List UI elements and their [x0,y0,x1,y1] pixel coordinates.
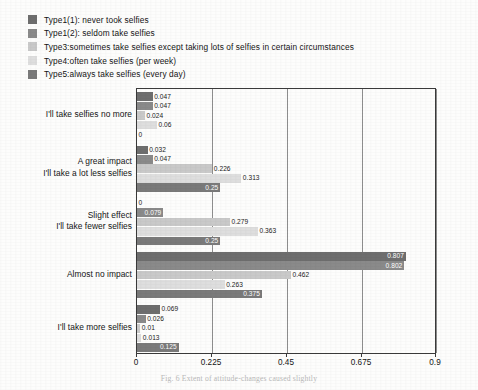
category-label: Slight effectI'll take fewer selfies [6,210,132,233]
legend-item-type1-1: Type1(1): never took selfies [28,13,458,27]
figure-page: Type1(1): never took selfiesType1(2): se… [0,0,478,390]
bar: 0.25 [137,237,220,246]
bar [137,174,241,183]
bar-row: 0.226 [137,164,435,173]
bar-row: 0.807 [137,252,435,261]
chart-legend: Type1(1): never took selfiesType1(2): se… [28,13,458,81]
plot-area: 0.0470.0470.0240.0600.0320.0470.2260.313… [136,88,436,354]
bar [137,315,146,324]
bar-value-label: 0.807 [387,253,404,260]
bar [137,334,141,343]
bar-group: 0.0690.0260.010.0130.125 [137,302,435,355]
bar [137,305,160,314]
bar: 0.25 [137,183,220,192]
category-label: A great impactI'll take a lot less selfi… [6,156,132,179]
bar: 0.375 [137,290,262,299]
gridline [436,89,437,353]
legend-item-type1-2: Type1(2): seldom take selfies [28,27,458,41]
category-label: I'll take selfies no more [6,109,132,120]
category-label: Almost no impact [6,269,132,280]
bar [137,280,225,289]
bar: 0.125 [137,343,179,352]
bar-row: 0.462 [137,271,435,280]
bar-value-label: 0.25 [205,184,218,191]
bar-value-label: 0.01 [142,325,155,332]
x-tick-label: 0.9 [429,358,440,367]
legend-item-type3: Type3:sometimes take selfies except taki… [28,40,458,54]
legend-swatch-icon [28,15,37,24]
x-tick-label: 0.225 [201,358,222,367]
legend-item-label: Type3:sometimes take selfies except taki… [44,42,354,52]
bar-value-label: 0.375 [243,291,260,298]
bar [137,218,230,227]
bar [137,271,291,280]
bar-value-label: 0.313 [243,175,260,182]
bar-value-label: 0.802 [386,262,403,269]
bar [137,102,153,111]
figure-caption: Fig. 6 Extent of attitude-changes caused… [0,374,478,383]
bar-value-label: 0.069 [162,306,179,313]
bar-row: 0.069 [137,305,435,314]
bar-group: 0.8070.8020.4620.2630.375 [137,249,435,302]
bar-value-label: 0 [139,131,143,138]
bar-row: 0 [137,199,435,208]
category-axis-labels: I'll take selfies no moreA great impactI… [0,88,132,354]
x-tick [136,354,137,357]
bar-value-label: 0.026 [147,316,164,323]
bar-row: 0.375 [137,290,435,299]
bar-value-label: 0.25 [205,238,218,245]
bar-row: 0.079 [137,208,435,217]
bar-value-label: 0.06 [159,122,172,129]
bar-value-label: 0.047 [154,103,171,110]
bar [137,121,157,130]
bar-row: 0.263 [137,280,435,289]
bar-value-label: 0.047 [154,156,171,163]
bar [137,164,212,173]
x-tick [435,354,436,357]
bar-group: 00.0790.2790.3630.25 [137,195,435,248]
bar-row: 0.047 [137,102,435,111]
bar-row: 0.06 [137,121,435,130]
bar-value-label: 0.047 [154,93,171,100]
x-tick [211,354,212,357]
bar-value-label: 0 [139,200,143,207]
bar-row: 0.313 [137,174,435,183]
bar-value-label: 0.226 [214,165,231,172]
legend-swatch-icon [28,56,37,65]
bar-value-label: 0.263 [226,281,243,288]
bar [137,111,145,120]
bar-group: 0.0470.0470.0240.060 [137,89,435,142]
bar: 0.807 [137,252,406,261]
x-tick-label: 0 [134,358,139,367]
legend-item-label: Type5:always take selfies (every day) [44,69,186,79]
bar-row: 0.024 [137,111,435,120]
legend-swatch-icon [28,70,37,79]
bar-row: 0.363 [137,227,435,236]
legend-swatch-icon [28,29,37,38]
bar-value-label: 0.013 [143,335,160,342]
bar: 0.079 [137,208,163,217]
x-tick-label: 0.675 [351,358,372,367]
bar-value-label: 0.024 [147,112,164,119]
bar [137,92,153,101]
legend-item-label: Type4:often take selfies (per week) [44,56,176,66]
bar-row: 0.25 [137,183,435,192]
legend-item-type4: Type4:often take selfies (per week) [28,54,458,68]
bar-row: 0.01 [137,324,435,333]
bar-row: 0.802 [137,261,435,270]
legend-item-type5: Type5:always take selfies (every day) [28,67,458,81]
legend-item-label: Type1(2): seldom take selfies [44,28,155,38]
x-axis: 00.2250.450.6750.9 [136,354,436,370]
bar-row: 0.125 [137,343,435,352]
bar-row: 0.032 [137,146,435,155]
bar-row: 0.25 [137,237,435,246]
bar-group: 0.0320.0470.2260.3130.25 [137,142,435,195]
bar: 0.802 [137,261,404,270]
x-tick [361,354,362,357]
bar-value-label: 0.363 [260,228,277,235]
bar-row: 0.013 [137,334,435,343]
legend-item-label: Type1(1): never took selfies [44,15,149,25]
legend-swatch-icon [28,42,37,51]
bar-row: 0.026 [137,315,435,324]
bar-value-label: 0.279 [232,219,249,226]
